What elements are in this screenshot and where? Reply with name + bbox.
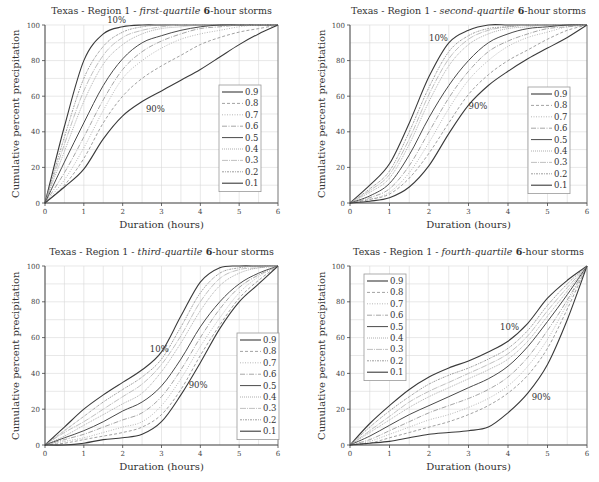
legend: 0.90.80.70.60.50.40.30.20.1 — [364, 274, 406, 381]
legend-label: 0.3 — [390, 344, 404, 354]
chart-fourth-quartile: Texas - Region 1 - fourth-quartile 6-hou… — [0, 0, 599, 482]
x-tick-label: 2 — [427, 450, 431, 458]
x-tick-label: 6 — [585, 450, 590, 458]
x-tick-label: 5 — [545, 450, 549, 458]
legend-label: 0.4 — [390, 333, 404, 343]
x-tick-label: 4 — [506, 450, 511, 458]
y-tick-label: 100 — [332, 263, 345, 271]
annotation-label: 10% — [500, 322, 519, 332]
legend-label: 0.2 — [390, 356, 404, 366]
y-tick-label: 0 — [341, 442, 345, 450]
plot-area: 020406080100012345610%90%0.90.80.70.60.5… — [0, 0, 599, 482]
legend-label: 0.5 — [390, 322, 404, 332]
y-tick-label: 60 — [336, 334, 345, 342]
y-tick-label: 40 — [336, 370, 345, 378]
legend-label: 0.7 — [390, 299, 404, 309]
legend-label: 0.6 — [390, 310, 404, 320]
annotation-label: 90% — [532, 392, 551, 402]
x-tick-label: 1 — [387, 450, 391, 458]
legend-label: 0.1 — [390, 367, 404, 377]
x-tick-label: 3 — [466, 450, 470, 458]
x-tick-label: 0 — [348, 450, 352, 458]
legend-label: 0.9 — [390, 276, 404, 286]
y-tick-label: 80 — [336, 298, 345, 306]
legend-label: 0.8 — [390, 287, 404, 297]
y-tick-label: 20 — [336, 406, 345, 414]
